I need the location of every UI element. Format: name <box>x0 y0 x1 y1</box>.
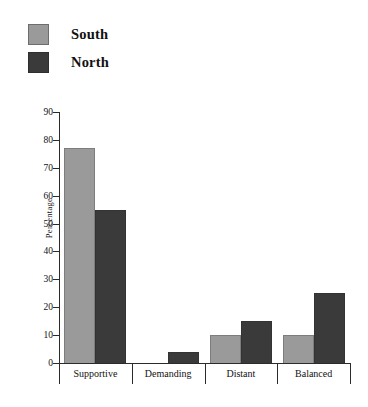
y-axis-tick-label: 30 <box>44 274 54 284</box>
y-axis-tick <box>53 307 59 308</box>
y-axis-tick-label: 40 <box>44 246 54 256</box>
y-axis-tick <box>53 196 59 197</box>
x-axis-separator <box>132 363 133 384</box>
x-axis-separator <box>350 363 351 384</box>
y-axis-tick <box>53 140 59 141</box>
x-axis-separator <box>59 363 60 384</box>
y-axis-tick-label: 50 <box>44 219 54 229</box>
y-axis-tick-label: 70 <box>44 163 54 173</box>
y-axis-tick <box>53 224 59 225</box>
bar-supportive-north <box>95 210 126 363</box>
y-axis-tick <box>53 335 59 336</box>
x-axis-label-distant: Distant <box>226 368 255 379</box>
y-axis-tick-label: 20 <box>44 302 54 312</box>
bar-balanced-south <box>283 335 314 363</box>
x-axis-separator <box>277 363 278 384</box>
bar-supportive-south <box>64 148 95 363</box>
bar-balanced-north <box>314 293 345 363</box>
bar-distant-south <box>210 335 241 363</box>
bar-demanding-north <box>168 352 199 363</box>
y-axis-tick-label: 10 <box>44 330 54 340</box>
bar-chart: Percentage 0102030405060708090 Supportiv… <box>0 0 368 407</box>
y-axis-tick <box>53 168 59 169</box>
y-axis-tick <box>53 112 59 113</box>
x-axis-separator <box>205 363 206 384</box>
y-axis-tick <box>53 279 59 280</box>
y-axis-tick-label: 60 <box>44 191 54 201</box>
y-axis-tick <box>53 251 59 252</box>
x-axis-label-balanced: Balanced <box>295 368 332 379</box>
bar-distant-north <box>241 321 272 363</box>
x-axis-label-supportive: Supportive <box>73 368 117 379</box>
y-axis-tick-label: 0 <box>48 358 53 368</box>
y-axis-tick-label: 80 <box>44 135 54 145</box>
x-axis-label-demanding: Demanding <box>145 368 192 379</box>
y-axis-tick-label: 90 <box>44 107 54 117</box>
